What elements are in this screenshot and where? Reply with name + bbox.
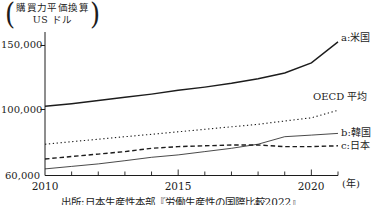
chart-plot [0,0,377,205]
x-axis-unit-label: (年) [342,179,360,189]
chart-figure: ( 購買力平価換算 US ドル ) 150,000 100,000 60,000… [0,0,377,205]
y-axis-unit-text: 購買力平価換算 US ドル [15,2,90,26]
y-axis-unit-line2: US ドル [33,14,73,25]
series-label-us: a:米国 [341,33,370,43]
y-tick-150000: 150,000 [1,40,40,50]
y-axis-unit-label: ( 購買力平価換算 US ドル ) [5,1,100,27]
paren-open: ( [5,0,15,29]
y-axis-unit-line1: 購買力平価換算 [16,2,89,13]
paren-close: ) [90,0,100,29]
series-label-korea: b:韓国 [341,128,371,138]
series-label-japan: c:日本 [341,141,370,151]
source-caption: 出所:日本生産性本部『労働生産性の国際比較2022』 [61,197,301,205]
x-tick-2020: 2020 [298,181,325,191]
x-tick-2010: 2010 [32,181,59,191]
y-tick-100000: 100,000 [1,105,40,115]
x-tick-2015: 2015 [165,181,192,191]
series-label-oecd: OECD 平均 [313,92,367,102]
